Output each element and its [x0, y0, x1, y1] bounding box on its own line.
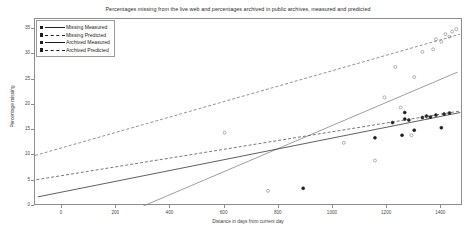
y-tick-mark	[31, 28, 34, 29]
legend-key-missing-measured	[40, 24, 66, 32]
data-point	[410, 134, 413, 137]
x-tick-mark	[278, 205, 279, 208]
chart-figure: Percentages missing from the live web an…	[0, 0, 476, 234]
data-point	[401, 134, 404, 137]
legend-marker-icon	[40, 33, 43, 36]
y-tick-mark	[31, 129, 34, 130]
legend-label: Missing Measured	[66, 24, 107, 30]
y-tick-label: 25	[16, 76, 30, 81]
data-point	[383, 96, 386, 99]
y-tick-label: 0	[16, 202, 30, 207]
data-point	[440, 126, 443, 129]
y-tick-label: 20	[16, 101, 30, 106]
legend-key-archived-predicted	[40, 46, 66, 54]
series-line-2	[38, 113, 461, 197]
y-tick-label: 30	[16, 50, 30, 55]
x-tick-mark	[61, 205, 62, 208]
legend-line-solid-icon	[45, 27, 65, 28]
x-tick-mark	[440, 205, 441, 208]
x-tick-label: 200	[102, 210, 128, 215]
x-tick-label: 400	[156, 210, 182, 215]
x-tick-label: 600	[211, 210, 237, 215]
legend-key-archived-measured	[40, 39, 66, 47]
y-tick-label: 10	[16, 151, 30, 156]
data-point	[399, 106, 402, 109]
data-point	[440, 40, 443, 43]
x-tick-mark	[115, 205, 116, 208]
legend-label: Archived Predicted	[66, 47, 109, 53]
data-point	[444, 33, 447, 36]
legend-item[interactable]: Missing Measured	[40, 24, 110, 32]
legend-line-dashed-icon	[45, 50, 65, 51]
data-point	[302, 187, 305, 190]
y-tick-mark	[31, 53, 34, 54]
data-point	[413, 76, 416, 79]
legend-marker-icon	[40, 41, 43, 44]
x-tick-label: 1400	[427, 210, 453, 215]
legend-line-dashed-icon	[45, 35, 65, 36]
x-tick-label: 1000	[319, 210, 345, 215]
legend-key-missing-predicted	[40, 31, 66, 39]
legend-line-solid-icon	[45, 42, 65, 43]
y-tick-mark	[31, 205, 34, 206]
data-point	[432, 48, 435, 51]
data-point	[223, 131, 226, 134]
y-tick-label: 15	[16, 126, 30, 131]
x-axis-label: Distance in days from current day	[34, 219, 462, 224]
legend-item[interactable]: Archived Measured	[40, 39, 110, 47]
data-point	[342, 141, 345, 144]
legend-label: Missing Predicted	[66, 32, 106, 38]
legend-marker-icon	[40, 26, 43, 29]
data-point	[451, 30, 454, 33]
legend-label: Archived Measured	[66, 39, 110, 45]
x-tick-label: 0	[48, 210, 74, 215]
x-tick-mark	[224, 205, 225, 208]
x-tick-label: 800	[265, 210, 291, 215]
series-line-0	[143, 72, 457, 206]
data-point	[394, 66, 397, 69]
series-line-3	[36, 111, 460, 180]
y-tick-mark	[31, 154, 34, 155]
data-point	[421, 116, 424, 119]
x-tick-mark	[386, 205, 387, 208]
data-point	[373, 136, 376, 139]
chart-title: Percentages missing from the live web an…	[0, 6, 476, 12]
y-tick-label: 35	[16, 25, 30, 30]
y-axis-label: Percentage missing	[10, 57, 15, 157]
x-tick-mark	[332, 205, 333, 208]
chart-legend: Missing Measured Missing Predicted Archi…	[36, 20, 115, 57]
legend-marker-icon	[40, 48, 43, 51]
data-point	[455, 28, 458, 31]
data-point	[421, 50, 424, 53]
legend-item[interactable]: Archived Predicted	[40, 46, 110, 54]
data-point	[373, 159, 376, 162]
data-point	[434, 38, 437, 41]
x-tick-label: 1200	[373, 210, 399, 215]
data-point	[266, 189, 269, 192]
y-tick-mark	[31, 79, 34, 80]
y-tick-mark	[31, 104, 34, 105]
x-tick-mark	[169, 205, 170, 208]
legend-item[interactable]: Missing Predicted	[40, 31, 110, 39]
data-point	[413, 129, 416, 132]
y-tick-mark	[31, 180, 34, 181]
data-point	[403, 111, 406, 114]
y-tick-label: 5	[16, 177, 30, 182]
